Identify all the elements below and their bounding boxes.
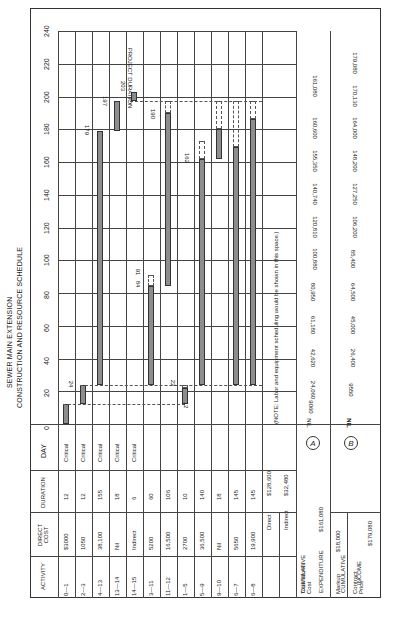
table-row-line (30, 512, 296, 513)
day-tick: 0 (43, 426, 50, 430)
cum-inc-value: 106,200 (352, 216, 358, 238)
cum-inc-value: 148,200 (352, 150, 358, 172)
cell-duration: 106 (165, 490, 171, 500)
label-203: 203 (120, 81, 126, 91)
cell-direct-cost: 2700 (182, 537, 188, 550)
contract-value: $179,080 (367, 521, 373, 546)
activity-bar (114, 101, 120, 130)
cum-exp-value: 120,810 (312, 216, 318, 238)
cell-direct-cost: 5650 (233, 537, 239, 550)
cum-inc-label-top: CUMULATIVE (340, 555, 346, 593)
cum-exp-label-bottom: EXPENDITURE (318, 550, 324, 593)
cell-direct-cost: 16,500 (165, 532, 171, 550)
cum-exp-value: 80,950 (310, 283, 316, 301)
day-tick: 60 (43, 324, 50, 332)
header-duration: DURATION (40, 477, 46, 508)
day-tick: 200 (43, 91, 50, 103)
activity-bar (233, 147, 239, 384)
cum-exp-value: 61,180 (310, 316, 316, 334)
float-1-5 (182, 385, 188, 388)
day-tick: 120 (43, 222, 50, 234)
label-12: 12 (183, 402, 189, 409)
float-3-11 (148, 275, 154, 286)
day-tick: 20 (43, 389, 50, 397)
day-tick: 80 (43, 291, 50, 299)
cum-exp-value: 100,880 (312, 248, 318, 270)
cell-duration: 60 (148, 493, 154, 500)
day-tick: 140 (43, 189, 50, 201)
cell-activity: 2—3 (80, 583, 86, 596)
activity-bar (199, 159, 205, 385)
float-11-12 (165, 101, 171, 112)
cell-direct-cost: 36,500 (199, 532, 205, 550)
label-22: 22 (170, 380, 176, 387)
header-day: DAY (40, 444, 47, 458)
cell-direct-cost: 19,900 (250, 532, 256, 550)
cell-day: Critical (131, 444, 137, 462)
cell-direct-cost: 38,100 (97, 532, 103, 550)
cum-exp-value: 140,740 (312, 183, 318, 205)
cum-inc-value: 85,400 (350, 250, 356, 268)
divider (330, 512, 381, 513)
cell-duration: 6 (131, 497, 137, 500)
cell-duration: 18 (216, 493, 222, 500)
cell-activity: 6—8 (250, 583, 256, 596)
cum-inc-value: 170,130 (352, 85, 358, 107)
label-190: 190 (150, 109, 156, 119)
cell-activity: 3—11 (148, 580, 154, 596)
cell-activity: 6—7 (233, 583, 239, 596)
total-indirect-label: Indirect (283, 510, 289, 530)
divider (296, 470, 297, 598)
table-row-line (30, 424, 58, 425)
total-works-value: $161,080 (318, 507, 324, 532)
title-line1: SEWER MAIN EXTENSION (6, 296, 13, 388)
gridline-h (58, 424, 381, 425)
activity-bar (80, 385, 86, 405)
cell-activity: 13—14 (114, 577, 120, 596)
float-5-9 (199, 141, 205, 159)
day-tick: 100 (43, 255, 50, 267)
activity-bar (165, 113, 171, 287)
float-9-10 (216, 101, 222, 129)
project-duration-label: PROJECT DURATION (127, 48, 133, 108)
activity-bar (97, 131, 103, 385)
float-6-7 (233, 101, 239, 147)
cell-activity: 4—13 (97, 580, 103, 596)
label-179: 179 (84, 125, 90, 135)
marker-b: B (344, 436, 358, 450)
label-91: 91 (135, 269, 141, 276)
activity-bar (148, 286, 154, 384)
table-row-line (30, 470, 296, 471)
cell-duration: 12 (80, 493, 86, 500)
cum-inc-value: 45,000 (350, 316, 356, 334)
connector-197 (130, 101, 262, 102)
float-6-8 (250, 101, 256, 119)
marker-a: A (306, 436, 320, 450)
cell-day: Critical (63, 444, 69, 462)
cum-exp-value: 9060 (308, 400, 314, 413)
divider (347, 512, 348, 598)
activity-bar (216, 129, 222, 158)
totals-divider (279, 512, 280, 598)
cell-activity: 14—15 (131, 577, 137, 596)
cum-inc-value: 64,500 (350, 283, 356, 301)
cum-inc-value: 26,400 (350, 348, 356, 366)
cell-day: Critical (114, 444, 120, 462)
label-84: 84 (135, 281, 141, 288)
cell-duration: 10 (182, 493, 188, 500)
cell-direct-cost: Nil (114, 543, 120, 550)
activity-bar (250, 119, 256, 384)
cum-inc-value: 179,080 (352, 52, 358, 74)
cell-activity: 9—10 (216, 580, 222, 596)
cell-duration: 12 (63, 493, 69, 500)
cell-activity: 5—9 (199, 583, 205, 596)
cell-duration: 145 (250, 490, 256, 500)
cum-exp-value: 155,350 (312, 150, 318, 172)
cell-activity: 11—12 (165, 577, 171, 596)
cell-day: Critical (97, 444, 103, 462)
cum-inc-value: 9550 (348, 384, 354, 397)
total-indirect-value: $32,480 (283, 474, 289, 496)
day-tick: 220 (43, 58, 50, 70)
cum-exp-value: 160,600 (312, 117, 318, 139)
header-direct-cost: DIRECT COST (37, 520, 49, 550)
